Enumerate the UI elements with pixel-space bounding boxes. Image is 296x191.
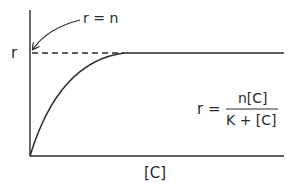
saturation-diagram: r r = n r = n[C] K + [C] [C] <box>0 0 296 191</box>
x-axis-label: [C] <box>144 164 166 182</box>
equation-denominator: K + [C] <box>226 112 277 128</box>
equation-numerator: n[C] <box>238 90 268 106</box>
y-axis-label: r <box>11 44 18 62</box>
equation-lhs: r = <box>197 100 221 118</box>
asymptote-annotation: r = n <box>83 10 118 26</box>
annotation-arrow-icon <box>33 20 80 49</box>
